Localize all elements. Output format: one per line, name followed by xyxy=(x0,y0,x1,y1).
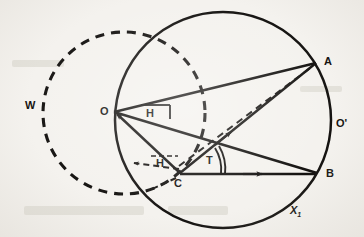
label-angle-H-at-C: H xyxy=(156,158,164,169)
label-arc-X1: X1 xyxy=(290,205,301,218)
label-point-O: O xyxy=(100,106,109,117)
geometry-figure: A B C O O' W H H T X1 xyxy=(0,0,364,237)
figure-canvas xyxy=(0,0,364,237)
label-angle-H-at-O: H xyxy=(146,108,154,119)
label-angle-T: T xyxy=(206,155,213,166)
angle-marker-T-at-C-arc-inner xyxy=(215,148,221,174)
label-point-O-prime: O' xyxy=(336,118,347,129)
circle-W xyxy=(43,32,205,194)
label-circle-W: W xyxy=(25,100,35,111)
label-arc-X1-subscript: 1 xyxy=(297,211,301,218)
label-point-B: B xyxy=(326,168,334,179)
circle-O-prime xyxy=(115,12,331,228)
tangent-tick-dashed xyxy=(152,178,176,189)
label-point-A: A xyxy=(324,56,332,67)
label-point-C: C xyxy=(174,178,182,189)
